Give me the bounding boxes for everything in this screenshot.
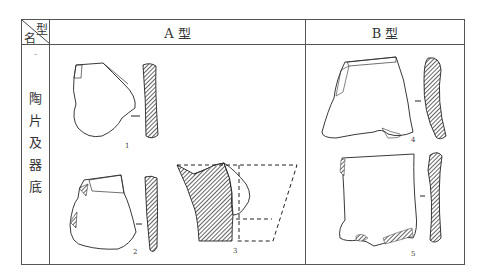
svg-text:5: 5 (411, 250, 415, 258)
figure-3-vessel-reconstruction: 3 (177, 163, 297, 255)
figure-5-sherd: 5 (340, 153, 442, 258)
figure-1-sherd: 1 (73, 63, 158, 150)
svg-text:2: 2 (133, 248, 137, 256)
sherd-drawings: 1 2 3 4 5 (0, 0, 486, 277)
figure-4-sherd: 4 (322, 57, 446, 144)
svg-text:4: 4 (411, 136, 416, 144)
svg-text:1: 1 (125, 142, 129, 150)
svg-text:3: 3 (233, 247, 237, 255)
figure-2-sherd: 2 (70, 175, 158, 256)
